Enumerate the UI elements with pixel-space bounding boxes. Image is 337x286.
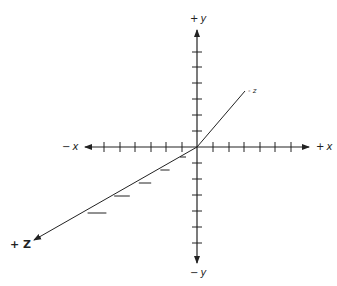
- z-negative-label: - z: [248, 87, 257, 95]
- z-axis: [34, 91, 245, 240]
- 3d-axes-diagram: +y −y −x +x - z + Z: [0, 0, 337, 286]
- y-negative-label: −y: [190, 267, 207, 278]
- z-positive-label: + Z: [10, 238, 31, 251]
- x-positive-label: +x: [316, 141, 332, 152]
- y-positive-label: +y: [190, 13, 207, 24]
- x-negative-label: −x: [62, 141, 78, 152]
